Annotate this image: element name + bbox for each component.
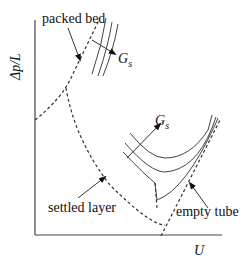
settled-layer-arrow bbox=[78, 177, 105, 198]
lower-gs-label: Gs bbox=[155, 113, 169, 131]
settled-layer-label: settled layer bbox=[48, 200, 116, 215]
packed-bed-line bbox=[35, 18, 100, 120]
upper-gs-curve-1 bbox=[92, 18, 106, 74]
upper-gs-label: Gs bbox=[118, 51, 132, 69]
upper-gs-arrow bbox=[92, 40, 115, 54]
packed-bed-label: packed bed bbox=[42, 11, 105, 26]
y-axis-label: Δp/L bbox=[8, 53, 23, 81]
diagram-canvas: Δp/L U packed bed Gs Gs settled layer em… bbox=[0, 0, 247, 265]
x-axis-label: U bbox=[194, 243, 205, 258]
lower-gs-arrow bbox=[127, 124, 160, 158]
empty-tube-label: empty tube bbox=[176, 204, 239, 219]
lower-gs-curve-3 bbox=[123, 118, 218, 200]
lower-gs-curve-2 bbox=[125, 117, 216, 172]
packed-bed-arrow bbox=[68, 28, 80, 60]
